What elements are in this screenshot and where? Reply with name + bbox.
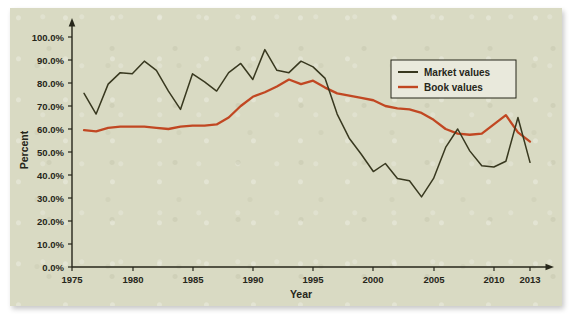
x-tick-label-1980: 1980 [122, 274, 143, 285]
legend-label-book-values: Book values [424, 82, 483, 93]
line-chart: 0.0% 10.0% 20.0% 30.0% 40.0% 50.0% 60.0%… [0, 0, 578, 322]
chart-figure: 0.0% 10.0% 20.0% 30.0% 40.0% 50.0% 60.0%… [0, 0, 578, 322]
y-tick-label-20: 20.0% [37, 216, 64, 227]
x-tick-label-2005: 2005 [423, 274, 445, 285]
y-tick-label-80: 80.0% [37, 78, 64, 89]
y-tick-label-0: 0.0% [42, 262, 64, 273]
x-axis-title: Year [290, 288, 312, 300]
y-tick-label-60: 60.0% [37, 124, 64, 135]
x-tick-label-2013: 2013 [519, 274, 540, 285]
y-axis-title: Percent [18, 130, 30, 169]
y-tick-label-70: 70.0% [37, 101, 64, 112]
x-tick-label-2010: 2010 [483, 274, 504, 285]
y-tick-label-100: 100.0% [32, 32, 65, 43]
y-tick-label-50: 50.0% [37, 147, 64, 158]
x-tick-label-1985: 1985 [182, 274, 204, 285]
x-axis-tick-labels: 1975 1980 1985 1990 1995 2000 2005 2010 … [61, 274, 540, 285]
x-tick-label-1995: 1995 [302, 274, 324, 285]
chart-legend: Market values Book values [391, 60, 516, 98]
y-tick-label-30: 30.0% [37, 193, 64, 204]
legend-label-market-values: Market values [424, 67, 491, 78]
y-axis-arrowhead [69, 18, 76, 27]
y-axis-tick-labels: 0.0% 10.0% 20.0% 30.0% 40.0% 50.0% 60.0%… [32, 32, 65, 273]
x-tick-label-2000: 2000 [362, 274, 383, 285]
y-tick-label-90: 90.0% [37, 55, 64, 66]
x-axis-arrowhead [546, 264, 555, 271]
x-tick-label-1990: 1990 [242, 274, 263, 285]
x-tick-label-1975: 1975 [61, 274, 83, 285]
y-tick-label-10: 10.0% [37, 239, 64, 250]
chart-axes [69, 18, 554, 270]
y-tick-label-40: 40.0% [37, 170, 64, 181]
